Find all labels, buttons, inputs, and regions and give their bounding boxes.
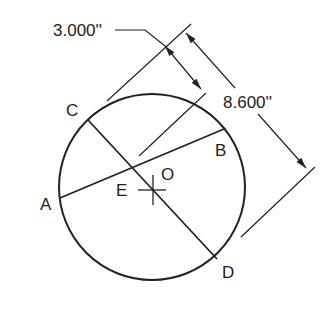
- dimension-line-large-lower: [258, 114, 306, 168]
- point-label-e: E: [116, 181, 127, 200]
- dimension-large-label: 8.600'': [223, 93, 272, 112]
- dimension-line-small: [165, 46, 201, 89]
- extension-line-mid: [139, 93, 206, 156]
- point-label-o: O: [161, 165, 174, 184]
- diagram-canvas: 3.000'' 8.600'' C B O E A D: [0, 0, 333, 317]
- extension-line-bottom: [241, 167, 315, 237]
- point-label-c: C: [66, 101, 78, 120]
- point-label-d: D: [222, 263, 234, 282]
- chord-ab: [60, 129, 224, 198]
- point-label-a: A: [40, 195, 52, 214]
- dimension-small-label: 3.000'': [53, 21, 102, 40]
- point-label-b: B: [215, 141, 226, 160]
- leader-small: [115, 30, 165, 46]
